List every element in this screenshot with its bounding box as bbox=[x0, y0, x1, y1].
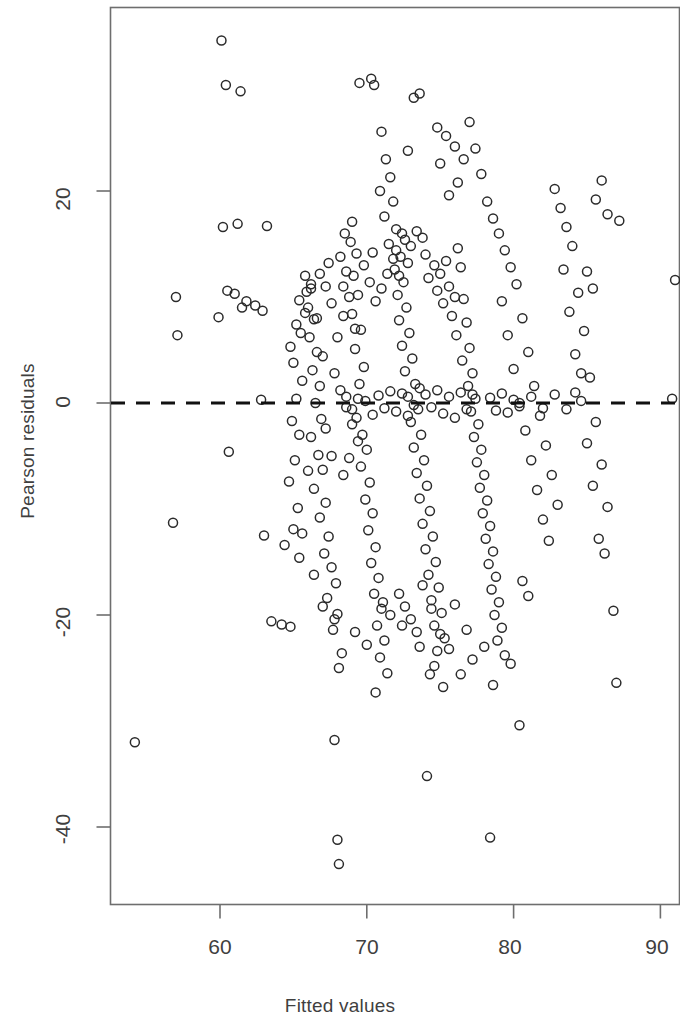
data-point bbox=[373, 621, 382, 630]
data-point bbox=[339, 312, 348, 321]
data-point bbox=[497, 389, 506, 398]
data-point bbox=[615, 216, 624, 225]
data-point bbox=[433, 123, 442, 132]
data-point bbox=[378, 598, 387, 607]
data-point bbox=[603, 210, 612, 219]
data-point bbox=[333, 333, 342, 342]
data-point bbox=[591, 195, 600, 204]
data-point bbox=[380, 404, 389, 413]
y-tick-label-1: 0 bbox=[51, 379, 75, 425]
data-point bbox=[491, 406, 500, 415]
data-point bbox=[258, 306, 267, 315]
data-point bbox=[296, 329, 305, 338]
data-point bbox=[352, 249, 361, 258]
data-point bbox=[233, 219, 242, 228]
data-point bbox=[293, 503, 302, 512]
data-point bbox=[671, 276, 680, 285]
data-point bbox=[295, 296, 304, 305]
data-point bbox=[445, 644, 454, 653]
data-point bbox=[348, 420, 357, 429]
data-point bbox=[315, 382, 324, 391]
data-point bbox=[330, 615, 339, 624]
data-point bbox=[491, 572, 500, 581]
data-point bbox=[403, 259, 412, 268]
data-point bbox=[321, 424, 330, 433]
data-point bbox=[430, 261, 439, 270]
data-point bbox=[417, 430, 426, 439]
data-point bbox=[298, 529, 307, 538]
data-point bbox=[377, 127, 386, 136]
data-point bbox=[597, 460, 606, 469]
data-point bbox=[424, 570, 433, 579]
data-point bbox=[315, 269, 324, 278]
data-point bbox=[353, 437, 362, 446]
data-point bbox=[450, 413, 459, 422]
data-point bbox=[406, 242, 415, 251]
data-point bbox=[427, 596, 436, 605]
data-point bbox=[527, 456, 536, 465]
data-point bbox=[321, 498, 330, 507]
data-point bbox=[309, 484, 318, 493]
data-point bbox=[383, 669, 392, 678]
data-point bbox=[433, 647, 442, 656]
data-point bbox=[445, 282, 454, 291]
data-point bbox=[450, 142, 459, 151]
residual-scatter-plot: Pearson residuals Fitted values 60 70 80… bbox=[0, 0, 680, 1030]
data-points bbox=[130, 36, 679, 869]
data-point bbox=[339, 282, 348, 291]
data-point bbox=[484, 560, 493, 569]
y-tick-label-3: -40 bbox=[51, 806, 75, 852]
data-point bbox=[330, 736, 339, 745]
data-point bbox=[486, 833, 495, 842]
data-point bbox=[242, 297, 251, 306]
data-point bbox=[395, 316, 404, 325]
data-point bbox=[462, 318, 471, 327]
data-point bbox=[442, 131, 451, 140]
data-point bbox=[483, 197, 492, 206]
data-point bbox=[323, 594, 332, 603]
data-point bbox=[287, 417, 296, 426]
data-point bbox=[409, 443, 418, 452]
data-point bbox=[506, 263, 515, 272]
data-point bbox=[430, 661, 439, 670]
data-point bbox=[538, 515, 547, 524]
data-point bbox=[324, 259, 333, 268]
data-point bbox=[340, 229, 349, 238]
data-point bbox=[361, 495, 370, 504]
data-point bbox=[285, 477, 294, 486]
data-point bbox=[334, 860, 343, 869]
data-point bbox=[403, 146, 412, 155]
data-point bbox=[612, 678, 621, 687]
data-point bbox=[487, 585, 496, 594]
y-axis-title: Pearson residuals bbox=[17, 331, 39, 551]
data-point bbox=[221, 81, 230, 90]
data-point bbox=[359, 362, 368, 371]
data-point bbox=[497, 623, 506, 632]
data-point bbox=[553, 500, 562, 509]
data-point bbox=[362, 445, 371, 454]
data-point bbox=[346, 237, 355, 246]
data-point bbox=[337, 649, 346, 658]
data-point bbox=[489, 680, 498, 689]
plot-box bbox=[111, 8, 680, 905]
data-point bbox=[583, 267, 592, 276]
data-point bbox=[428, 532, 437, 541]
data-point bbox=[436, 269, 445, 278]
data-point bbox=[318, 465, 327, 474]
data-point bbox=[580, 326, 589, 335]
data-point bbox=[521, 426, 530, 435]
data-point bbox=[433, 286, 442, 295]
data-point bbox=[348, 217, 357, 226]
plot-canvas bbox=[0, 0, 680, 1030]
data-point bbox=[339, 471, 348, 480]
data-point bbox=[450, 293, 459, 302]
data-point bbox=[386, 611, 395, 620]
data-point bbox=[380, 636, 389, 645]
data-point bbox=[465, 118, 474, 127]
data-point bbox=[348, 405, 357, 414]
data-point bbox=[371, 688, 380, 697]
data-point bbox=[218, 223, 227, 232]
data-point bbox=[493, 636, 502, 645]
data-point bbox=[427, 403, 436, 412]
data-point bbox=[600, 549, 609, 558]
